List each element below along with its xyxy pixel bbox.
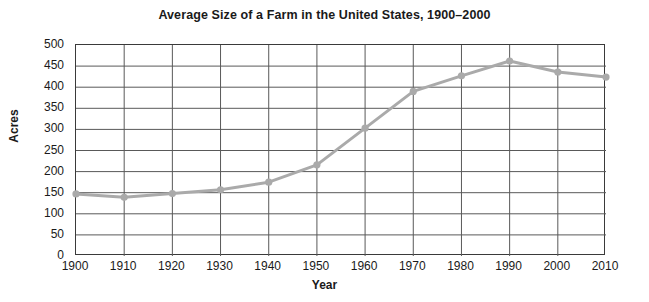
data-point-marker: 1930: 157 [217,186,224,193]
y-tick-label: 450 [44,59,64,71]
y-tick-label: 400 [44,80,64,92]
data-point-marker: 1920: 148 [169,190,176,197]
chart-title: Average Size of a Farm in the United Sta… [0,8,649,22]
data-point-marker: 2010: 424 [602,73,609,80]
x-tick-label: 1930 [206,259,233,273]
data-point-marker: 1990: 462 [506,57,513,64]
data-point-marker: 1910: 139 [121,194,128,201]
x-axis-tick-labels: 1900191019201930194019501960197019801990… [75,259,605,275]
x-tick-label: 2000 [543,259,570,273]
x-tick-label: 2010 [592,259,619,273]
chart-container: Average Size of a Farm in the United Sta… [0,0,649,302]
data-point-marker: 2000: 436 [554,68,561,75]
x-tick-label: 1970 [399,259,426,273]
x-axis-title: Year [0,278,649,292]
x-tick-label: 1980 [447,259,474,273]
x-tick-label: 1940 [254,259,281,273]
x-tick-label: 1990 [495,259,522,273]
x-tick-label: 1950 [303,259,330,273]
y-tick-label: 350 [44,101,64,113]
y-tick-label: 150 [44,186,64,198]
y-tick-label: 200 [44,165,64,177]
y-tick-label: 50 [51,228,64,240]
x-tick-label: 1910 [110,259,137,273]
data-point-marker: 1970: 390 [410,88,417,95]
y-tick-label: 300 [44,122,64,134]
data-point-marker: 1900: 147 [72,190,79,197]
data-point-marker: 1980: 427 [458,72,465,79]
data-point-marker: 1960: 303 [361,125,368,132]
y-axis-tick-labels: 050100150200250300350400450500 [0,44,70,255]
data-series-line: 1900: 1471910: 1391920: 1481930: 1571940… [76,45,606,256]
x-tick-label: 1900 [62,259,89,273]
y-tick-label: 250 [44,144,64,156]
plot-area: 1900: 1471910: 1391920: 1481930: 1571940… [75,44,605,255]
y-tick-label: 100 [44,207,64,219]
y-tick-label: 500 [44,38,64,50]
series-polyline [76,61,606,197]
x-tick-label: 1960 [351,259,378,273]
data-point-marker: 1940: 175 [265,179,272,186]
x-tick-label: 1920 [158,259,185,273]
data-point-marker: 1950: 216 [313,161,320,168]
